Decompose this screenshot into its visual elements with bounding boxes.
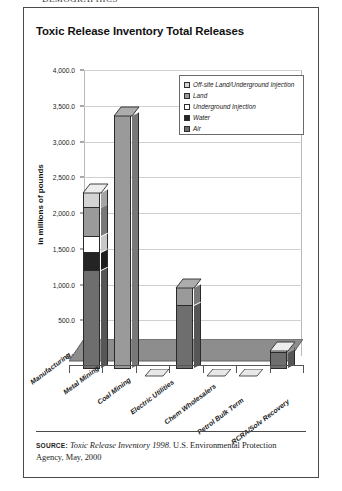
bar-segment xyxy=(176,287,193,305)
bar-segment xyxy=(176,305,193,369)
legend-swatch xyxy=(184,93,190,99)
x-axis-tick-mark xyxy=(169,365,170,373)
legend-item: Off-site Land/Underground Injection xyxy=(184,79,300,90)
legend-item: Underground Injection xyxy=(184,101,300,112)
x-axis-tick-mark xyxy=(136,365,137,373)
x-axis-category-label: Coal Mining xyxy=(96,376,132,405)
legend-swatch xyxy=(184,104,190,110)
bar-segment-side xyxy=(101,205,108,236)
legend-label: Air xyxy=(193,125,201,133)
bar-segment xyxy=(83,192,100,208)
x-axis-category-label: Petrol Bulk Term xyxy=(196,397,245,436)
page-bleed-text: DEMOGRAPHICS xyxy=(42,0,138,5)
x-axis-tick-mark xyxy=(303,365,304,373)
legend-swatch xyxy=(184,82,190,88)
legend-item: Air xyxy=(184,123,300,134)
legend-swatch xyxy=(184,126,190,132)
source-title: Toxic Release Inventory 1998. xyxy=(70,441,171,450)
bar-segment xyxy=(83,207,100,236)
chart-area: 4,000.03,500.03,000.02,500.02,000.01,500… xyxy=(25,48,319,423)
legend-swatch xyxy=(184,115,190,121)
x-axis-tick-mark xyxy=(236,365,237,373)
figure-box: Toxic Release Inventory Total Releases 4… xyxy=(23,7,319,478)
bar-top-face xyxy=(270,342,287,350)
x-axis-tick-mark xyxy=(270,365,271,373)
x-axis-tick-mark xyxy=(69,365,70,373)
source-note: SOURCE: Toxic Release Inventory 1998. U.… xyxy=(36,440,304,463)
page-bleed-label: DEMOGRAPHICS xyxy=(42,0,138,4)
bar-top-face xyxy=(114,107,131,115)
bar-segment-side xyxy=(101,268,108,368)
bar-segment xyxy=(83,236,100,252)
legend-label: Land xyxy=(193,92,207,100)
bar-top-face xyxy=(176,279,193,287)
source-label: SOURCE: xyxy=(36,442,68,449)
legend-label: Off-site Land/Underground Injection xyxy=(193,81,294,89)
x-axis-tick-mark xyxy=(102,365,103,373)
x-axis-labels: ManufacturingMetal MiningCoal MiningElec… xyxy=(25,374,319,426)
legend-label: Water xyxy=(193,114,210,122)
bar-segment xyxy=(114,115,131,369)
bar-segment-side xyxy=(132,113,139,368)
bar-segment-side xyxy=(194,302,201,368)
legend-item: Water xyxy=(184,112,300,123)
x-axis-category-label: Electric Utilities xyxy=(129,378,175,415)
bar-segment xyxy=(83,252,100,270)
bar-column xyxy=(176,287,193,369)
bar-column xyxy=(83,192,100,369)
bar-top-face xyxy=(83,184,100,192)
figure-title: Toxic Release Inventory Total Releases xyxy=(36,25,301,37)
legend-label: Underground Injection xyxy=(193,103,256,111)
bar-segment xyxy=(83,270,100,369)
bar-column xyxy=(114,115,131,369)
x-axis-tick-mark xyxy=(203,365,204,373)
legend-item: Land xyxy=(184,90,300,101)
source-divider xyxy=(36,431,306,432)
chart-legend: Off-site Land/Underground InjectionLandU… xyxy=(179,75,304,135)
